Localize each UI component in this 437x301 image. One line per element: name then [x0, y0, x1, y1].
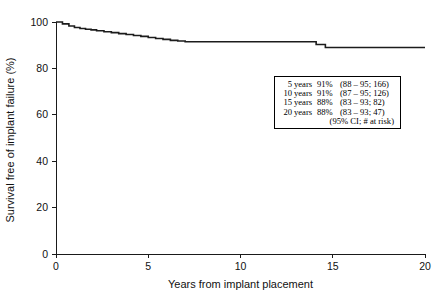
y-axis-title: Survival free of implant failure (%)	[4, 57, 16, 222]
x-axis-title: Years from implant placement	[168, 278, 313, 290]
y-axis-ticks: 020406080100	[30, 16, 56, 260]
y-tick-label: 0	[42, 248, 48, 260]
y-tick-label: 100	[30, 16, 48, 28]
x-tick-label: 10	[235, 260, 247, 272]
y-tick-label: 60	[36, 108, 48, 120]
x-axis-group: 05101520	[53, 254, 431, 272]
y-tick-label: 40	[36, 155, 48, 167]
survival-chart: 020406080100 05101520 Years from implant…	[0, 0, 437, 301]
y-tick-label: 80	[36, 62, 48, 74]
km-plot-svg: 020406080100 05101520 Years from implant…	[0, 0, 437, 301]
legend-footnote: (95% CI; # at risk)	[330, 116, 395, 126]
x-tick-label: 20	[419, 260, 431, 272]
legend-time-unit: years	[294, 107, 313, 117]
legend-time-value: 20	[283, 107, 292, 117]
x-tick-label: 5	[145, 260, 151, 272]
x-tick-label: 15	[327, 260, 339, 272]
y-tick-label: 20	[36, 201, 48, 213]
x-tick-label: 0	[53, 260, 59, 272]
y-axis-group: 020406080100	[30, 16, 56, 260]
curve-group	[56, 22, 425, 48]
survival-curve-line	[56, 22, 425, 48]
legend-box: 5years91%(88 – 95; 166)10years91%(87 – 9…	[275, 77, 401, 129]
x-axis-ticks: 05101520	[53, 254, 431, 272]
